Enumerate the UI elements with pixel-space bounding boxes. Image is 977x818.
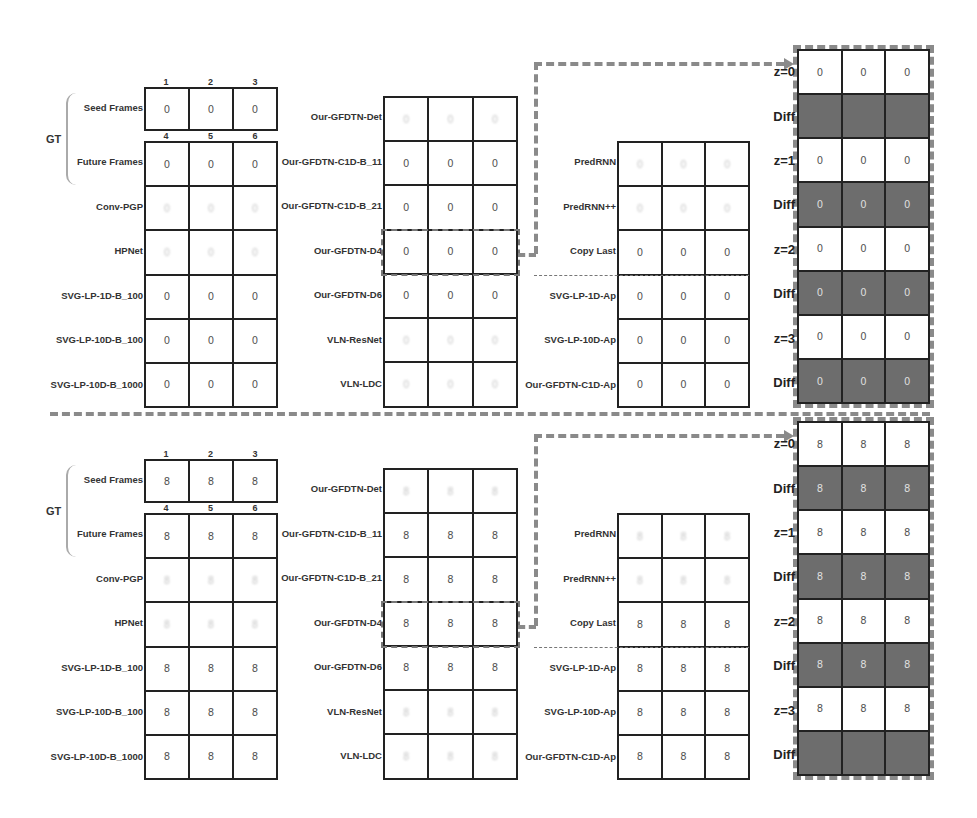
digit-glyph: 8 xyxy=(403,486,409,497)
digit-glyph: 0 xyxy=(447,379,453,390)
digit-glyph: 8 xyxy=(208,751,214,762)
frame-cell: 0 xyxy=(843,51,885,93)
row-label: SVG-LP-1D-Ap xyxy=(496,662,616,673)
digit-glyph: 0 xyxy=(208,247,214,258)
digit-glyph: 8 xyxy=(860,483,866,494)
frame-cell: 8 xyxy=(619,515,661,557)
digit-glyph: 0 xyxy=(680,159,686,170)
frame-cell: 8 xyxy=(706,736,748,778)
frame-cell: 8 xyxy=(843,600,885,642)
frame-cell: 8 xyxy=(385,470,427,512)
frame-cell: 0 xyxy=(190,187,232,229)
row-label: Diff xyxy=(745,286,795,301)
column-number: 1 xyxy=(144,449,188,459)
digit-glyph: 0 xyxy=(860,243,866,254)
frame-cell: 8 xyxy=(886,467,928,509)
row-label: Diff xyxy=(745,658,795,673)
frame-cell: 8 xyxy=(619,736,661,778)
row-label: Our-GFDTN-C1D-B_21 xyxy=(252,572,382,583)
digit-glyph: 8 xyxy=(403,707,409,718)
digit-glyph: 0 xyxy=(904,199,910,210)
frame-cell: 0 xyxy=(799,183,841,225)
row-label: SVG-LP-10D-B_1000 xyxy=(3,379,143,390)
row-label: Future Frames xyxy=(3,528,143,539)
frame-cell: 0 xyxy=(429,319,471,361)
frame-cell: 0 xyxy=(385,319,427,361)
frame-cell: 8 xyxy=(429,735,471,777)
row-label: z=2 xyxy=(745,614,795,629)
digit-glyph: 8 xyxy=(447,574,453,585)
frame-cell: 8 xyxy=(190,692,232,734)
frame-cell: 8 xyxy=(843,423,885,465)
row-label: Our-GFDTN-C1D-B_11 xyxy=(252,156,382,167)
frame-cell: 8 xyxy=(706,692,748,734)
frame-cell: 8 xyxy=(146,515,188,557)
digit-glyph: 8 xyxy=(637,751,643,762)
frame-cell: 8 xyxy=(190,603,232,645)
digit-glyph: 8 xyxy=(817,659,823,670)
digit-glyph: 0 xyxy=(403,158,409,169)
frame-cell: 8 xyxy=(799,688,841,730)
row-label: PredRNN++ xyxy=(496,201,616,212)
separator-line xyxy=(534,275,749,276)
frame-cell: 8 xyxy=(190,559,232,601)
frame-cell: 8 xyxy=(146,692,188,734)
frame-cell: 0 xyxy=(663,231,705,273)
frame-cell: 0 xyxy=(886,183,928,225)
digit-glyph: 8 xyxy=(680,619,686,630)
row-label: SVG-LP-10D-B_100 xyxy=(3,706,143,717)
digit-glyph: 0 xyxy=(403,335,409,346)
digit-glyph: 0 xyxy=(492,114,498,125)
row-label: z=1 xyxy=(745,525,795,540)
digit-glyph: 8 xyxy=(817,615,823,626)
digit-glyph: 0 xyxy=(208,203,214,214)
digit-glyph: 0 xyxy=(860,199,866,210)
digit-glyph: 8 xyxy=(164,707,170,718)
frame-cell: 0 xyxy=(706,143,748,185)
row-label: SVG-LP-10D-Ap xyxy=(496,334,616,345)
frame-cell: 0 xyxy=(706,320,748,362)
digit-glyph: 8 xyxy=(904,703,910,714)
digit-glyph: 8 xyxy=(680,751,686,762)
frame-cell: 8 xyxy=(146,559,188,601)
frame-cell: 0 xyxy=(886,228,928,270)
frame-cell xyxy=(799,95,841,137)
digit-glyph: 8 xyxy=(860,659,866,670)
digit-glyph: 0 xyxy=(817,155,823,166)
digit-glyph: 8 xyxy=(403,530,409,541)
row-label: Our-GFDTN-C1D-B_21 xyxy=(252,200,382,211)
row-label: SVG-LP-10D-B_1000 xyxy=(3,751,143,762)
frame-cell: 8 xyxy=(706,648,748,690)
row-label: VLN-LDC xyxy=(252,750,382,761)
row-label: Our-GFDTN-C1D-B_11 xyxy=(252,528,382,539)
frame-cell: 0 xyxy=(843,316,885,358)
digit-glyph: 0 xyxy=(724,291,730,302)
digit-glyph: 0 xyxy=(904,287,910,298)
frame-cell: 8 xyxy=(190,461,232,501)
frame-cell: 8 xyxy=(799,511,841,553)
frame-cell: 8 xyxy=(474,470,516,512)
frame-cell: 0 xyxy=(619,143,661,185)
row-label: Diff xyxy=(745,569,795,584)
frame-cell: 0 xyxy=(886,272,928,314)
digit-glyph: 8 xyxy=(817,703,823,714)
frame-cell: 0 xyxy=(385,98,427,140)
digit-glyph: 0 xyxy=(637,379,643,390)
row-label: PredRNN++ xyxy=(496,573,616,584)
frame-cell: 0 xyxy=(190,143,232,185)
digit-glyph: 8 xyxy=(904,439,910,450)
digit-glyph: 8 xyxy=(680,575,686,586)
row-label: HPNet xyxy=(3,245,143,256)
row-label: z=0 xyxy=(745,436,795,451)
digit-glyph: 8 xyxy=(403,574,409,585)
digit-glyph: 0 xyxy=(680,335,686,346)
frame-cell: 0 xyxy=(799,360,841,402)
frame-cell: 8 xyxy=(429,691,471,733)
frame-cell xyxy=(886,95,928,137)
row-label: Diff xyxy=(745,481,795,496)
digit-glyph: 8 xyxy=(724,663,730,674)
row-label: Conv-PGP xyxy=(3,573,143,584)
digit-glyph: 8 xyxy=(164,751,170,762)
frame-cell: 8 xyxy=(385,647,427,689)
digit-glyph: 8 xyxy=(492,486,498,497)
